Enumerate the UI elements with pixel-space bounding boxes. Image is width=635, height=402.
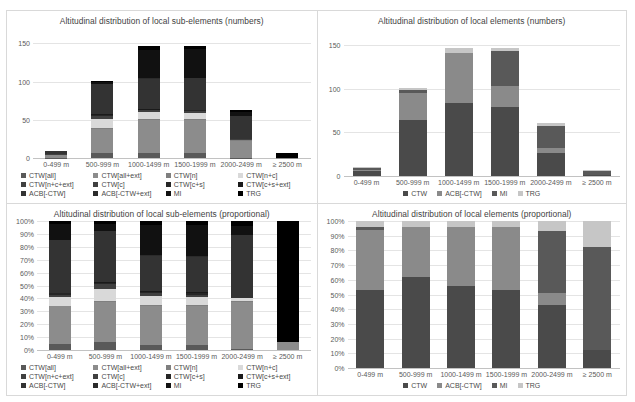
bar-segment[interactable] bbox=[94, 342, 116, 350]
bar-segment[interactable] bbox=[231, 349, 253, 350]
stacked-bar[interactable] bbox=[356, 221, 384, 368]
legend-item[interactable]: TRG bbox=[518, 190, 541, 197]
bar-segment[interactable] bbox=[231, 226, 253, 235]
legend-item[interactable]: CTW[c+s+ext] bbox=[238, 373, 308, 380]
legend-item[interactable]: CTW[c] bbox=[93, 373, 163, 380]
bar-segment[interactable] bbox=[399, 120, 427, 176]
legend-item[interactable]: MI bbox=[166, 190, 236, 197]
bar-segment[interactable] bbox=[186, 257, 208, 292]
bar-segment[interactable] bbox=[140, 256, 162, 291]
legend-item[interactable]: ACB[-CTW] bbox=[437, 190, 482, 197]
bar-segment[interactable] bbox=[140, 345, 162, 350]
legend-item[interactable]: CTW[c+s+ext] bbox=[238, 181, 308, 188]
bar-segment[interactable] bbox=[138, 112, 160, 119]
stacked-bar[interactable] bbox=[45, 127, 67, 158]
bar-segment[interactable] bbox=[230, 116, 252, 139]
bar-segment[interactable] bbox=[184, 78, 206, 109]
legend-item[interactable]: CTW bbox=[403, 382, 427, 389]
bar-segment[interactable] bbox=[91, 153, 113, 158]
bar-segment[interactable] bbox=[538, 305, 566, 368]
legend-item[interactable]: CTW[all] bbox=[21, 364, 91, 371]
bar-segment[interactable] bbox=[138, 79, 160, 109]
bar-segment[interactable] bbox=[583, 175, 611, 176]
bar-segment[interactable] bbox=[184, 120, 206, 153]
bar-segment[interactable] bbox=[277, 221, 299, 342]
legend-item[interactable]: ACB[-CTW] bbox=[21, 382, 91, 389]
bar-segment[interactable] bbox=[184, 153, 206, 158]
stacked-bar[interactable] bbox=[138, 37, 160, 158]
stacked-bar[interactable] bbox=[491, 38, 519, 176]
bar-segment[interactable] bbox=[231, 302, 253, 348]
bar-segment[interactable] bbox=[583, 221, 611, 247]
legend-item[interactable]: CTW[all+ext] bbox=[93, 172, 163, 179]
legend-item[interactable]: CTW[n] bbox=[166, 172, 236, 179]
bar-segment[interactable] bbox=[356, 230, 384, 290]
bar-segment[interactable] bbox=[231, 235, 253, 298]
bar-segment[interactable] bbox=[491, 107, 519, 176]
bar-segment[interactable] bbox=[537, 153, 565, 177]
bar-segment[interactable] bbox=[538, 293, 566, 305]
bar-segment[interactable] bbox=[537, 126, 565, 148]
bar-segment[interactable] bbox=[447, 286, 475, 368]
bar-segment[interactable] bbox=[538, 221, 566, 231]
bar-segment[interactable] bbox=[353, 171, 381, 176]
stacked-bar[interactable] bbox=[399, 62, 427, 176]
stacked-bar[interactable] bbox=[538, 221, 566, 368]
legend-item[interactable]: MI bbox=[492, 190, 508, 197]
legend-item[interactable]: CTW[n+c] bbox=[238, 364, 308, 371]
legend-item[interactable]: CTW[all] bbox=[21, 172, 91, 179]
bar-segment[interactable] bbox=[277, 342, 299, 350]
bar-segment[interactable] bbox=[402, 227, 430, 277]
bar-segment[interactable] bbox=[186, 306, 208, 345]
bar-segment[interactable] bbox=[356, 290, 384, 368]
stacked-bar[interactable] bbox=[91, 58, 113, 158]
stacked-bar[interactable] bbox=[230, 79, 252, 158]
bar-segment[interactable] bbox=[49, 240, 71, 293]
stacked-bar[interactable] bbox=[49, 221, 71, 350]
stacked-bar[interactable] bbox=[140, 221, 162, 350]
legend-item[interactable]: CTW[n+c+ext] bbox=[21, 181, 91, 188]
bar-segment[interactable] bbox=[447, 227, 475, 286]
stacked-bar[interactable] bbox=[537, 87, 565, 176]
stacked-bar[interactable] bbox=[94, 221, 116, 350]
legend-item[interactable]: CTW[n+c+ext] bbox=[21, 373, 91, 380]
stacked-bar[interactable] bbox=[231, 221, 253, 350]
legend-item[interactable]: TRG bbox=[238, 190, 308, 197]
bar-segment[interactable] bbox=[186, 345, 208, 350]
stacked-bar[interactable] bbox=[184, 37, 206, 158]
bar-segment[interactable] bbox=[91, 129, 113, 154]
bar-segment[interactable] bbox=[186, 297, 208, 305]
bar-segment[interactable] bbox=[140, 296, 162, 305]
bar-segment[interactable] bbox=[140, 225, 162, 255]
bar-segment[interactable] bbox=[138, 50, 160, 78]
bar-segment[interactable] bbox=[91, 84, 113, 114]
bar-segment[interactable] bbox=[49, 297, 71, 306]
bar-segment[interactable] bbox=[184, 49, 206, 77]
bar-segment[interactable] bbox=[138, 153, 160, 158]
legend-item[interactable]: MI bbox=[492, 382, 508, 389]
stacked-bar[interactable] bbox=[276, 132, 298, 158]
legend-item[interactable]: MI bbox=[166, 382, 236, 389]
legend-item[interactable]: CTW[all+ext] bbox=[93, 364, 163, 371]
bar-segment[interactable] bbox=[492, 227, 520, 290]
legend-item[interactable]: ACB[-CTW+ext] bbox=[93, 382, 163, 389]
bar-segment[interactable] bbox=[138, 120, 160, 153]
bar-segment[interactable] bbox=[140, 306, 162, 345]
bar-segment[interactable] bbox=[583, 350, 611, 368]
stacked-bar[interactable] bbox=[492, 221, 520, 368]
bar-segment[interactable] bbox=[491, 51, 519, 87]
stacked-bar[interactable] bbox=[447, 221, 475, 368]
legend-item[interactable]: TRG bbox=[518, 382, 541, 389]
bar-segment[interactable] bbox=[445, 53, 473, 103]
stacked-bar[interactable] bbox=[445, 38, 473, 176]
legend-item[interactable]: ACB[-CTW] bbox=[21, 190, 91, 197]
bar-segment[interactable] bbox=[492, 290, 520, 368]
stacked-bar[interactable] bbox=[583, 146, 611, 176]
legend-item[interactable]: CTW[n] bbox=[166, 364, 236, 371]
bar-segment[interactable] bbox=[49, 306, 71, 343]
legend-item[interactable]: CTW[c+s] bbox=[166, 373, 236, 380]
legend-item[interactable]: ACB[-CTW+ext] bbox=[93, 190, 163, 197]
bar-segment[interactable] bbox=[94, 224, 116, 232]
stacked-bar[interactable] bbox=[186, 221, 208, 350]
legend-item[interactable]: TRG bbox=[238, 382, 308, 389]
